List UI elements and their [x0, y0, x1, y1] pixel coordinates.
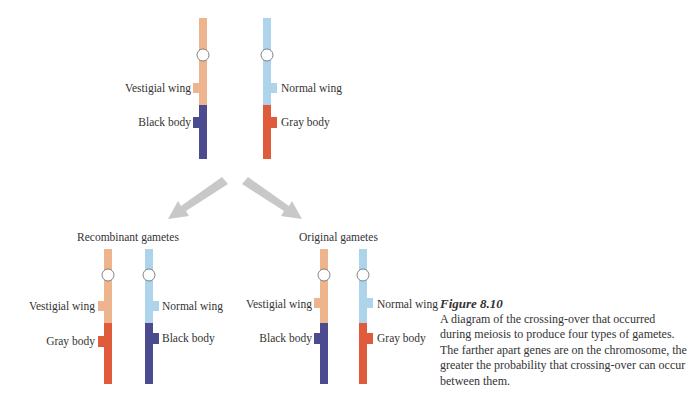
parent-left-body-label: Black body [138, 115, 191, 129]
centromere-icon [318, 269, 330, 281]
recombinant-chromosome-left [98, 249, 114, 384]
parent-chromosome-left [193, 18, 209, 159]
centromere-icon [197, 49, 209, 61]
recombinant-left-wing-label: Vestigial wing [29, 299, 95, 313]
original-gametes-heading: Original gametes [299, 231, 378, 243]
original-right-wing-label: Normal wing [377, 297, 438, 311]
original-right-body-label: Gray body [377, 331, 426, 345]
parent-right-wing-label: Normal wing [281, 81, 342, 95]
original-left-body-label: Black body [259, 331, 312, 345]
parent-left-wing-label: Vestigial wing [125, 81, 191, 95]
centromere-icon [261, 49, 273, 61]
centromere-icon [143, 269, 155, 281]
arrow-left-icon [168, 177, 228, 219]
parent-chromosome-right [261, 18, 277, 159]
recombinant-chromosome-right [143, 249, 159, 384]
centromere-icon [102, 269, 114, 281]
figure-title: Figure 8.10 [440, 296, 689, 312]
recombinant-gametes-heading: Recombinant gametes [77, 231, 179, 243]
arrow-right-icon [242, 177, 302, 219]
original-chromosome-right [357, 249, 373, 384]
recombinant-right-wing-label: Normal wing [162, 299, 223, 313]
figure-caption-text: A diagram of the crossing-over that occu… [440, 312, 687, 388]
recombinant-right-body-label: Black body [162, 331, 215, 345]
parent-right-body-label: Gray body [281, 115, 330, 129]
recombinant-left-body-label: Gray body [46, 334, 95, 348]
original-left-wing-label: Vestigial wing [246, 297, 312, 311]
centromere-icon [357, 269, 369, 281]
original-chromosome-left [314, 249, 330, 384]
figure-caption: Figure 8.10 A diagram of the crossing-ov… [440, 296, 689, 389]
